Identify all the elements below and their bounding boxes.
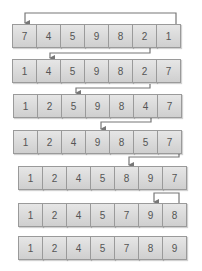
array-cell: 9 [162, 236, 187, 260]
array-cell: 4 [66, 166, 91, 190]
array-cell: 2 [42, 203, 67, 227]
array-cell: 8 [108, 24, 133, 48]
array-cell: 8 [162, 203, 187, 227]
array-cell: 1 [12, 59, 37, 83]
array-cell: 8 [108, 59, 133, 83]
array-cell: 5 [61, 94, 86, 118]
array-cell: 9 [138, 166, 163, 190]
array-cell: 2 [132, 59, 157, 83]
swap-arrow-4 [101, 118, 151, 129]
array-row-2: 1 4 5 9 8 2 7 [12, 59, 181, 83]
array-cell: 9 [85, 130, 110, 154]
array-row-6: 1 2 4 5 7 9 8 [18, 203, 187, 227]
array-cell: 1 [13, 130, 38, 154]
swap-arrow-3 [76, 84, 150, 93]
array-cell: 8 [109, 130, 134, 154]
array-cell: 8 [138, 236, 163, 260]
array-cell: 9 [85, 94, 110, 118]
array-cell: 8 [109, 94, 134, 118]
array-cell: 5 [90, 166, 115, 190]
array-row-3: 1 2 5 9 8 4 7 [13, 94, 182, 118]
array-cell: 5 [60, 24, 85, 48]
array-cell: 9 [84, 59, 109, 83]
array-row-1: 7 4 5 9 8 2 1 [12, 24, 181, 48]
array-cell: 2 [42, 166, 67, 190]
array-cell: 1 [18, 166, 43, 190]
array-row-4: 1 2 4 9 8 5 7 [13, 130, 182, 154]
array-cell: 7 [114, 236, 139, 260]
array-cell: 9 [138, 203, 163, 227]
swap-arrow-6 [154, 193, 179, 203]
array-cell: 5 [60, 59, 85, 83]
array-cell: 2 [132, 24, 157, 48]
array-cell: 1 [13, 94, 38, 118]
array-cell: 5 [133, 130, 158, 154]
array-cell: 2 [37, 130, 62, 154]
array-cell: 4 [61, 130, 86, 154]
array-cell: 4 [66, 236, 91, 260]
array-cell: 7 [162, 166, 187, 190]
array-cell: 5 [90, 236, 115, 260]
array-row-5: 1 2 4 5 8 9 7 [18, 166, 187, 190]
array-cell: 5 [90, 203, 115, 227]
array-cell: 9 [84, 24, 109, 48]
array-cell: 7 [114, 203, 139, 227]
array-cell: 2 [37, 94, 62, 118]
array-row-7: 1 2 4 5 7 8 9 [18, 236, 187, 260]
array-cell: 7 [157, 130, 182, 154]
array-cell: 1 [18, 236, 43, 260]
array-cell: 7 [157, 94, 182, 118]
array-cell: 2 [42, 236, 67, 260]
swap-arrow-2 [50, 48, 150, 58]
array-cell: 4 [66, 203, 91, 227]
swap-arrow-1 [25, 13, 176, 24]
array-cell: 8 [114, 166, 139, 190]
swap-arrow-5 [129, 154, 179, 165]
array-cell: 1 [156, 24, 181, 48]
array-cell: 1 [18, 203, 43, 227]
array-cell: 4 [133, 94, 158, 118]
array-cell: 7 [156, 59, 181, 83]
array-cell: 4 [36, 59, 61, 83]
array-cell: 4 [36, 24, 61, 48]
array-cell: 7 [12, 24, 37, 48]
